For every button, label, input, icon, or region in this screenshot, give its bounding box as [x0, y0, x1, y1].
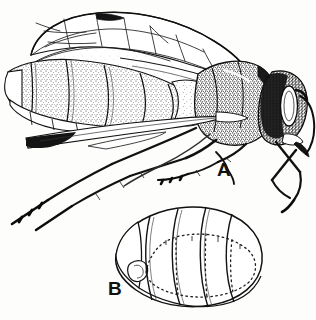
figure-b-label: B	[108, 279, 122, 298]
abdomen-b-spiracle	[128, 261, 148, 282]
figure-b-caption-text: B	[0, 0, 14, 4]
entomological-plate: A	[0, 0, 316, 320]
figure-a-label: A	[217, 160, 231, 179]
compound-eye	[281, 86, 298, 126]
